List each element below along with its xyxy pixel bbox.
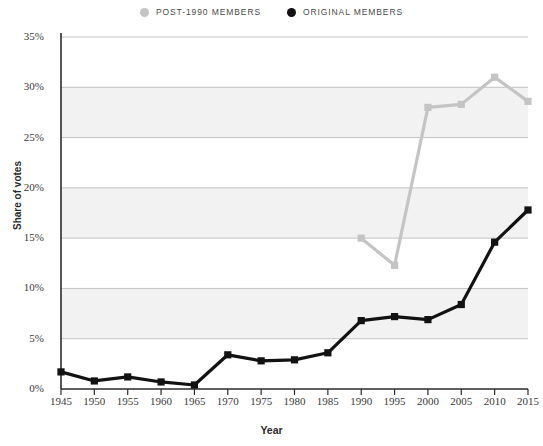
data-point-marker xyxy=(358,235,365,242)
data-point-marker xyxy=(524,98,531,105)
data-point-marker xyxy=(424,104,431,111)
data-point-marker xyxy=(391,313,398,320)
plot-area xyxy=(0,0,543,446)
data-point-marker xyxy=(291,356,298,363)
data-point-marker xyxy=(224,351,231,358)
plot-band xyxy=(61,87,528,137)
data-point-marker xyxy=(524,206,531,213)
data-point-marker xyxy=(258,357,265,364)
data-point-marker xyxy=(191,381,198,388)
data-point-marker xyxy=(458,101,465,108)
data-point-marker xyxy=(57,368,64,375)
data-point-marker xyxy=(491,74,498,81)
plot-band xyxy=(61,288,528,338)
data-point-marker xyxy=(157,378,164,385)
data-point-marker xyxy=(424,316,431,323)
data-point-marker xyxy=(124,373,131,380)
data-point-marker xyxy=(358,317,365,324)
chart-container: POST-1990 MEMBERS ORIGINAL MEMBERS Share… xyxy=(0,0,543,446)
data-point-marker xyxy=(324,349,331,356)
data-point-marker xyxy=(491,239,498,246)
data-point-marker xyxy=(391,262,398,269)
plot-band xyxy=(61,188,528,238)
data-point-marker xyxy=(458,301,465,308)
data-point-marker xyxy=(91,377,98,384)
